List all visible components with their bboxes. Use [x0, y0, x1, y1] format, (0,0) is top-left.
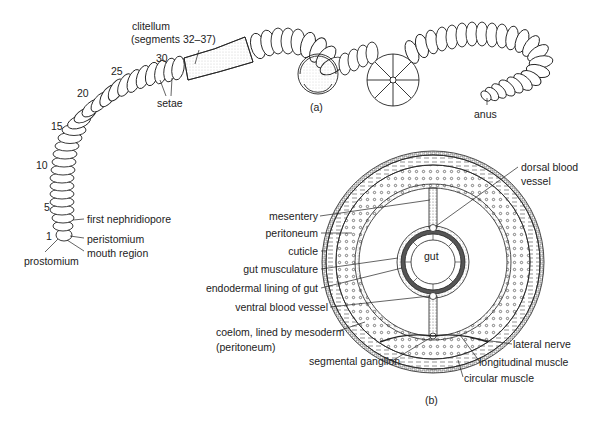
segment-number-10: 10: [36, 159, 48, 171]
cross-section: [322, 151, 544, 373]
earthworm-anatomy-figure: clitellum (segments 32–37) 30 25 20 15 1…: [0, 0, 608, 423]
label-circular-muscle: circular muscle: [464, 372, 534, 384]
label-clitellum-segments: (segments 32–37): [131, 33, 216, 45]
segment-number-1: 1: [46, 230, 52, 242]
label-endodermal-lining: endodermal lining of gut: [206, 282, 318, 294]
segment-number-25: 25: [111, 65, 123, 77]
label-peristomium: peristomium: [87, 233, 144, 245]
label-mesentery: mesentery: [269, 210, 318, 222]
label-dorsal-blood-vessel-cont: vessel: [521, 175, 551, 187]
label-longitudinal-muscle: longitudinal muscle: [479, 356, 568, 368]
label-anus: anus: [474, 108, 497, 120]
label-dorsal-blood-vessel: dorsal blood: [521, 161, 578, 173]
label-clitellum: clitellum: [132, 20, 170, 32]
segment-number-30: 30: [156, 52, 168, 64]
label-lateral-nerve: lateral nerve: [513, 338, 571, 350]
label-prostomium: prostomium: [24, 255, 79, 267]
segment-number-20: 20: [77, 87, 89, 99]
segment-number-5: 5: [44, 201, 50, 213]
label-gut: gut: [424, 250, 439, 262]
label-coelom-peritoneum: (peritoneum): [216, 341, 276, 353]
posterior-segments: [402, 22, 554, 103]
label-gut-musculature: gut musculature: [243, 263, 318, 275]
label-cuticle: cuticle: [288, 245, 318, 257]
label-first-nephridiopore: first nephridiopore: [87, 213, 171, 225]
label-mouth-region: mouth region: [87, 247, 148, 259]
label-coelom: coelom, lined by mesoderm: [216, 326, 344, 338]
label-peritoneum: peritoneum: [265, 227, 318, 239]
panel-a-label: (a): [310, 101, 323, 113]
segment-number-15: 15: [51, 120, 63, 132]
panel-b-label: (b): [425, 394, 438, 406]
label-segmental-ganglion: segmental ganglion: [309, 355, 400, 367]
label-ventral-blood-vessel: ventral blood vessel: [235, 301, 328, 313]
label-setae: setae: [157, 97, 183, 109]
